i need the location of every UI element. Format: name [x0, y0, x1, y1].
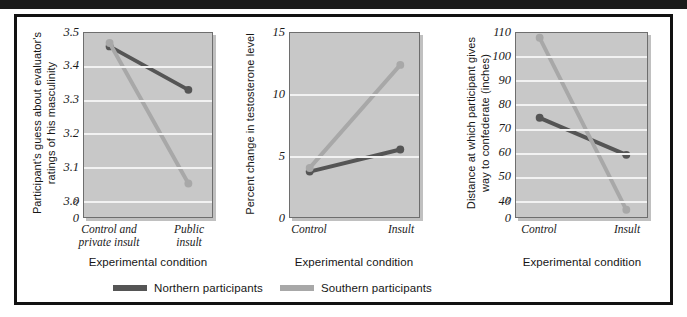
- data-point-northern: [396, 146, 404, 154]
- y-tick-label: 50: [467, 170, 511, 182]
- top-black-bar: [0, 0, 687, 9]
- gridline: [516, 129, 647, 131]
- plot-area-distance: [515, 32, 648, 218]
- gridline: [290, 156, 419, 158]
- gridline: [290, 94, 419, 96]
- x-axis-label-distance: Experimental condition: [492, 256, 672, 268]
- y-tick-label: 5: [241, 150, 285, 162]
- series-lines-distance: [516, 33, 647, 217]
- y-tick-label: 15: [241, 26, 285, 38]
- gridline: [516, 177, 647, 179]
- data-point-southern: [184, 180, 192, 188]
- top-bar-gap: [0, 9, 687, 12]
- gridline: [84, 100, 212, 102]
- plot-area-testosterone: [289, 32, 420, 218]
- data-point-northern: [184, 86, 192, 94]
- gridline: [516, 80, 647, 82]
- x-tick-label: Control: [269, 223, 349, 236]
- data-point-southern: [396, 61, 404, 69]
- data-point-southern: [622, 206, 630, 214]
- gridline: [516, 201, 647, 203]
- series-lines-masculinity: [84, 33, 212, 217]
- y-axis-label-masculinity: Participant's guess about evaluator's ra…: [30, 28, 58, 218]
- y-tick-label: 3.2: [35, 127, 79, 139]
- data-point-southern: [306, 164, 314, 172]
- y-tick-label: 80: [467, 98, 511, 110]
- y-tick-label: 70: [467, 122, 511, 134]
- x-axis-label-masculinity: Experimental condition: [58, 256, 238, 268]
- y-tick-label: 110: [467, 26, 511, 38]
- figure-container: Participant's guess about evaluator's ra…: [0, 0, 687, 317]
- x-tick-label: Insult: [361, 223, 441, 236]
- gridline: [84, 201, 212, 203]
- y-tick-label: 0: [241, 212, 285, 224]
- legend-item-southern: Southern participants: [280, 282, 432, 294]
- gridline: [516, 56, 647, 58]
- legend-swatch-southern: [280, 285, 314, 291]
- y-tick-label: 3.4: [35, 59, 79, 71]
- gridline: [84, 66, 212, 68]
- x-axis-label-testosterone: Experimental condition: [264, 256, 444, 268]
- series-lines-testosterone: [290, 33, 419, 217]
- legend-item-northern: Northern participants: [113, 282, 263, 294]
- x-tick-label: Control: [499, 223, 579, 236]
- plot-area-masculinity: [83, 32, 213, 218]
- x-tick-label: Public insult: [141, 223, 237, 249]
- gridline: [84, 133, 212, 135]
- y-tick-label: 3.1: [35, 161, 79, 173]
- gridline: [516, 104, 647, 106]
- y-tick-label: 90: [467, 74, 511, 86]
- y-tick-label: 100: [467, 50, 511, 62]
- y-axis-label-testosterone: Percent change in testosterone level: [243, 29, 257, 219]
- legend-swatch-northern: [113, 285, 147, 291]
- series-line-southern: [110, 43, 189, 184]
- data-point-southern: [536, 34, 544, 42]
- y-tick-label: 3.3: [35, 93, 79, 105]
- data-point-southern: [106, 39, 114, 47]
- y-tick-label: 3.5: [35, 26, 79, 38]
- legend-label-southern: Southern participants: [321, 282, 432, 294]
- x-tick-label: Insult: [587, 223, 667, 236]
- data-point-northern: [536, 114, 544, 122]
- y-tick-label: 10: [241, 88, 285, 100]
- gridline: [84, 167, 212, 169]
- gridline: [516, 153, 647, 155]
- legend-label-northern: Northern participants: [154, 282, 263, 294]
- y-tick-label: 60: [467, 146, 511, 158]
